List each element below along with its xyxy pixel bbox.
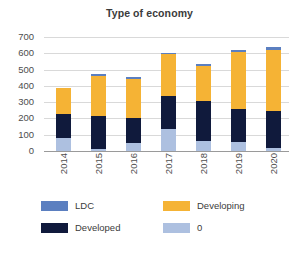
x-axis-label-2014: 2014: [59, 153, 69, 174]
y-tick-label-600: 600: [0, 48, 34, 58]
bar-series-group: [44, 37, 289, 151]
bar-column-2017[interactable]: [161, 53, 176, 152]
x-axis-label-2019: 2019: [234, 153, 244, 174]
bar-column-2020[interactable]: [266, 47, 281, 151]
legend-item-developed[interactable]: Developed: [41, 223, 120, 233]
x-axis-label-2018: 2018: [199, 153, 209, 174]
x-axis-label-2017: 2017: [164, 153, 174, 174]
bar-segment-2015-0[interactable]: [91, 149, 106, 151]
x-axis-label-2020: 2020: [269, 153, 279, 174]
legend-swatch-developing: [163, 201, 190, 211]
legend-swatch-0: [163, 223, 190, 233]
bar-segment-2017-0[interactable]: [161, 129, 176, 151]
y-tick-label-100: 100: [0, 130, 34, 140]
legend-item-0[interactable]: 0: [163, 223, 202, 233]
legend-item-developing[interactable]: Developing: [163, 201, 245, 211]
y-tick-label-0: 0: [0, 146, 34, 156]
y-axis-ticks: 0100200300400500600700: [0, 37, 38, 151]
bar-segment-2014-developing[interactable]: [56, 88, 71, 113]
chart-title: Type of economy: [0, 7, 299, 19]
chart-legend: LDCDevelopingDeveloped0: [41, 201, 271, 243]
y-tick-label-500: 500: [0, 65, 34, 75]
bar-segment-2016-0[interactable]: [126, 143, 141, 151]
chart-container: Type of economy 0100200300400500600700 2…: [0, 0, 299, 258]
bar-segment-2017-developed[interactable]: [161, 96, 176, 130]
bar-column-2018[interactable]: [196, 64, 211, 151]
bar-segment-2020-developing[interactable]: [266, 50, 281, 111]
legend-swatch-ldc: [41, 201, 68, 211]
bar-segment-2014-0[interactable]: [56, 138, 71, 151]
bar-segment-2020-0[interactable]: [266, 148, 281, 151]
x-axis-labels: 2014201520162017201820192020: [44, 153, 289, 193]
plot-area: [44, 37, 289, 151]
bar-segment-2018-developing[interactable]: [196, 66, 211, 102]
bar-segment-2019-developing[interactable]: [231, 52, 246, 110]
bar-segment-2016-developing[interactable]: [126, 79, 141, 119]
bar-column-2016[interactable]: [126, 77, 141, 151]
bar-segment-2016-developed[interactable]: [126, 118, 141, 142]
x-axis-label-2015: 2015: [94, 153, 104, 174]
y-tick-label-300: 300: [0, 97, 34, 107]
bar-segment-2019-0[interactable]: [231, 142, 246, 151]
x-axis-label-2016: 2016: [129, 153, 139, 174]
y-tick-label-200: 200: [0, 113, 34, 123]
bar-segment-2019-developed[interactable]: [231, 109, 246, 142]
bar-segment-2018-developed[interactable]: [196, 101, 211, 141]
gridline-0: [44, 151, 289, 152]
legend-label: Developed: [75, 223, 120, 233]
legend-label: Developing: [197, 201, 245, 211]
legend-label: 0: [197, 223, 202, 233]
bar-column-2014[interactable]: [56, 88, 71, 151]
bar-segment-2018-0[interactable]: [196, 141, 211, 151]
legend-swatch-developed: [41, 223, 68, 233]
bar-column-2019[interactable]: [231, 50, 246, 151]
y-tick-label-700: 700: [0, 32, 34, 42]
bar-segment-2015-developing[interactable]: [91, 76, 106, 117]
bar-segment-2020-developed[interactable]: [266, 111, 281, 148]
bar-segment-2017-developing[interactable]: [161, 54, 176, 96]
y-tick-label-400: 400: [0, 81, 34, 91]
legend-item-ldc[interactable]: LDC: [41, 201, 94, 211]
bar-segment-2015-developed[interactable]: [91, 116, 106, 149]
bar-segment-2014-developed[interactable]: [56, 114, 71, 138]
legend-label: LDC: [75, 201, 94, 211]
bar-column-2015[interactable]: [91, 74, 106, 151]
